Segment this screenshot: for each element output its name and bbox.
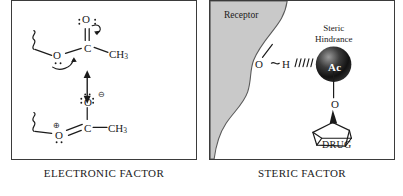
atom-alkoxide-oxygen: O (84, 96, 92, 108)
electronic-structures-svg (12, 1, 196, 159)
hydrogen-bond-squiggle (271, 62, 279, 63)
electronic-factor-diagram-box: O O C CH3 O ⊖ O ⊕ C CH3 (11, 0, 197, 160)
cyclopentane-ring-left-edge (317, 138, 322, 145)
steric-factor-diagram-box: Receptor Steric Hindrance O H O Ac DRUG (209, 0, 395, 160)
atom-linking-oxygen: O (331, 98, 339, 110)
atom-ester-oxygen-top: O (53, 49, 61, 61)
panel-steric-factor: Receptor Steric Hindrance O H O Ac DRUG … (209, 0, 395, 179)
label-drug: DRUG (322, 140, 352, 150)
bond-carbon-to-methyl (94, 47, 108, 52)
caption-electronic-factor: ELECTRONIC FACTOR (44, 167, 164, 179)
atom-oxocarbenium-oxygen: O (55, 129, 63, 141)
lone-pair-dots-oxocarbenium (56, 141, 63, 143)
hydrogen-bond-hatching (295, 59, 313, 67)
curved-arrow-head-ester (71, 57, 77, 62)
steric-structures-svg (210, 1, 394, 159)
cyclopentane-ring-right-edge (349, 130, 351, 138)
charge-positive-oxocarbenium: ⊕ (53, 121, 60, 130)
atom-carbonyl-carbon-top: C (84, 42, 91, 54)
cyclopentane-ring-back-edge (313, 132, 352, 138)
bond-receptor-to-oxygen (263, 44, 273, 57)
lone-pair-dots-ester-top (55, 62, 62, 64)
bond-wavy-to-oxocarbenium (35, 131, 52, 133)
charge-negative-alkoxide: ⊖ (98, 90, 105, 99)
atom-hydroxyl-hydrogen: H (282, 58, 290, 70)
atom-methyl-top: CH3 (109, 48, 128, 61)
figure-root: O O C CH3 O ⊖ O ⊕ C CH3 ELECTRONIC FACTO… (0, 0, 403, 196)
atom-methyl-bottom: CH3 (108, 122, 127, 135)
atom-carbonyl-oxygen-top: O (82, 13, 90, 25)
wedge-bond-oxygen-to-ring (330, 110, 338, 124)
double-bond-bottom-b (68, 130, 81, 135)
label-acetyl-sphere: Ac (328, 61, 341, 73)
panel-electronic-factor: O O C CH3 O ⊖ O ⊕ C CH3 ELECTRONIC FACTO… (11, 0, 197, 179)
atom-hydroxyl-oxygen: O (255, 58, 263, 70)
wavy-bond-bottom (33, 113, 35, 132)
resonance-arrow-head-up (84, 70, 91, 78)
label-steric-hindrance: Steric Hindrance (315, 23, 352, 46)
caption-steric-factor: STERIC FACTOR (258, 167, 346, 179)
double-bond-bottom-a (66, 124, 82, 130)
receptor-surface (210, 1, 287, 159)
wavy-bond-top (33, 31, 35, 50)
label-receptor: Receptor (224, 11, 258, 21)
bond-ester-oxygen-to-carbon (65, 48, 81, 53)
atom-carbonyl-carbon-bottom: C (84, 122, 91, 134)
bond-wavy-to-ester-oxygen (35, 49, 52, 55)
